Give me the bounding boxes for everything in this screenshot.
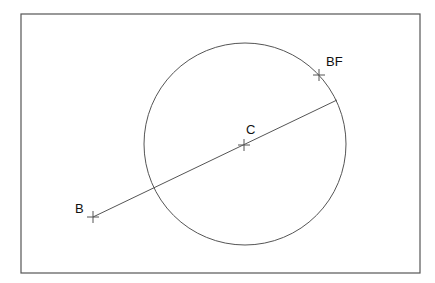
point-c-marker [238,139,250,151]
diagram-canvas: B C BF [0,0,435,283]
point-b-marker [87,211,99,223]
point-c-label: C [246,122,255,137]
segment-b-to-circle [93,100,337,217]
point-b-label: B [75,201,84,216]
point-bf-label: BF [326,54,343,69]
frame [21,14,420,273]
